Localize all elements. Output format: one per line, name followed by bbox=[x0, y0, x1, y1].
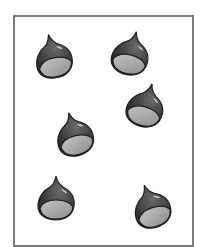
chestnut-icon bbox=[36, 175, 76, 221]
